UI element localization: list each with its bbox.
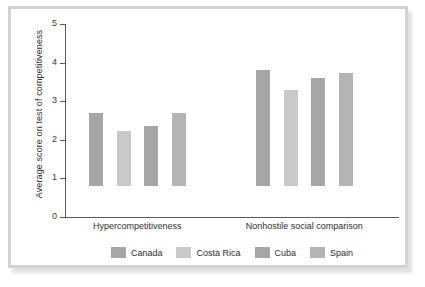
y-axis-tick-label: 3 — [35, 96, 57, 106]
legend-item[interactable]: Costa Rica — [176, 247, 240, 258]
y-axis-tick-label: 2 — [35, 135, 57, 145]
figure-root: Average score on test of competitiveness… — [0, 0, 425, 287]
bar — [117, 131, 131, 186]
bar — [89, 113, 103, 186]
y-axis-tick — [60, 63, 66, 64]
x-axis-line — [65, 217, 399, 218]
figure-inner: Average score on test of competitiveness… — [11, 9, 405, 265]
bar — [339, 73, 353, 186]
y-axis-line — [65, 24, 66, 218]
bar — [172, 113, 186, 186]
legend-label: Canada — [131, 248, 163, 258]
y-axis-tick — [60, 140, 66, 141]
bar — [144, 126, 158, 186]
y-axis-tick — [60, 24, 66, 25]
legend-swatch — [310, 247, 325, 258]
legend-item[interactable]: Cuba — [255, 247, 297, 258]
x-axis-group-label: Hypercompetitiveness — [47, 221, 227, 231]
bar — [256, 70, 270, 186]
legend-swatch — [255, 247, 270, 258]
y-axis-tick-label-text: 2 — [35, 135, 57, 144]
legend-swatch — [176, 247, 191, 258]
y-axis-tick-label-text: 0 — [35, 212, 57, 221]
y-axis-tick — [60, 101, 66, 102]
y-axis-tick-label-text: 3 — [35, 96, 57, 105]
y-axis-tick-label: 5 — [35, 19, 57, 29]
y-axis-tick — [60, 217, 66, 218]
legend-swatch — [111, 247, 126, 258]
legend-item[interactable]: Spain — [310, 247, 353, 258]
legend-label: Spain — [330, 248, 353, 258]
bar — [284, 90, 298, 186]
plot-area: Average score on test of competitiveness… — [11, 9, 405, 265]
y-axis-tick-label: 4 — [35, 58, 57, 68]
x-axis-group-label: Nonhostile social comparison — [214, 221, 394, 231]
y-axis-tick-label-text: 1 — [35, 173, 57, 182]
bar — [311, 78, 325, 186]
y-axis-tick-label: 1 — [35, 173, 57, 183]
figure-frame: Average score on test of competitiveness… — [8, 6, 408, 268]
chart-legend: CanadaCosta RicaCubaSpain — [65, 247, 399, 258]
y-axis-tick-label-text: 5 — [35, 19, 57, 28]
y-axis-tick — [60, 178, 66, 179]
legend-item[interactable]: Canada — [111, 247, 163, 258]
legend-label: Costa Rica — [196, 248, 240, 258]
y-axis-tick-label-text: 4 — [35, 58, 57, 67]
legend-label: Cuba — [275, 248, 297, 258]
